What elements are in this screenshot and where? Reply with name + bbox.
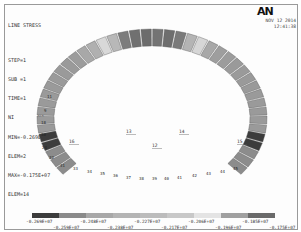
element-number: 38 — [139, 176, 144, 181]
legend-swatch — [59, 213, 86, 218]
element-number: 40 — [164, 176, 169, 181]
beam-element — [141, 29, 151, 46]
legend-swatch — [221, 213, 248, 218]
beam-element — [250, 116, 267, 124]
node-label: 12 — [152, 143, 158, 148]
legend-label-bottom: -0.196E+07 — [215, 225, 241, 230]
beam-element — [153, 29, 163, 46]
element-number: 31 — [60, 163, 65, 168]
element-number: 37 — [126, 175, 131, 180]
element-number: 34 — [87, 169, 92, 174]
beam-element — [249, 107, 267, 116]
legend-label-bottom: -0.259E+07 — [53, 225, 79, 230]
color-legend — [32, 213, 275, 218]
node-label: 16 — [69, 139, 75, 144]
legend-label-top: -0.206E+07 — [188, 219, 214, 224]
legend-swatch — [248, 213, 275, 218]
legend-swatch — [140, 213, 167, 218]
element-number: 30 — [41, 132, 46, 137]
element-number: 24 — [42, 145, 47, 150]
element-number: 41 — [177, 175, 182, 180]
node-label: 14 — [179, 129, 185, 134]
element-number: 11 — [47, 94, 52, 99]
element-number: 44 — [220, 169, 225, 174]
arch-stress-plot: 1613141215119183024323133343536373839404… — [0, 0, 301, 232]
element-number: 43 — [206, 171, 211, 176]
legend-label-top: -0.248E+07 — [80, 219, 106, 224]
legend-label-bottom: -0.238E+07 — [107, 225, 133, 230]
legend-label-top: -0.185E+07 — [242, 219, 268, 224]
legend-label-bottom: -0.217E+07 — [161, 225, 187, 230]
legend-label-bottom: -0.175E+07 — [269, 225, 295, 230]
legend-label-top: -0.269E+07 — [26, 219, 52, 224]
element-number: 32 — [49, 155, 54, 160]
legend-swatch — [113, 213, 140, 218]
element-number: 42 — [192, 173, 197, 178]
element-number: 33 — [73, 166, 78, 171]
legend-swatch — [86, 213, 113, 218]
beam-element — [129, 30, 141, 48]
node-label: 15 — [237, 139, 243, 144]
legend-label-top: -0.227E+07 — [134, 219, 160, 224]
element-number: 35 — [100, 171, 105, 176]
beam-element — [163, 30, 175, 48]
element-number: 18 — [41, 120, 46, 125]
legend-swatch — [167, 213, 194, 218]
legend-swatch — [194, 213, 221, 218]
element-number: 45 — [233, 166, 238, 171]
element-number: 39 — [152, 176, 157, 181]
element-number: 36 — [113, 173, 118, 178]
legend-swatch — [32, 213, 59, 218]
node-label: 13 — [126, 129, 132, 134]
